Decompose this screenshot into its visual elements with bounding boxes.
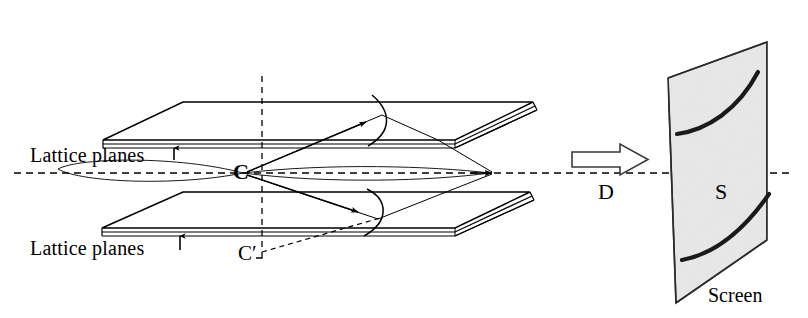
screen — [668, 42, 769, 303]
diffraction-diagram: Lattice planes Lattice planes C C′ D S S… — [0, 0, 808, 318]
vertical-line-foot — [256, 252, 262, 258]
lattice-planes-bottom-label: Lattice planes — [30, 238, 144, 258]
screen-caption-label: Screen — [708, 285, 762, 305]
lattice-planes-top-label: Lattice planes — [30, 145, 144, 165]
distance-d-label: D — [598, 181, 614, 203]
screen-point-s-label: S — [715, 181, 727, 203]
point-c-label: C — [233, 161, 249, 183]
direction-block-arrow-icon — [572, 144, 648, 175]
point-c-prime-label: C′ — [238, 243, 257, 264]
